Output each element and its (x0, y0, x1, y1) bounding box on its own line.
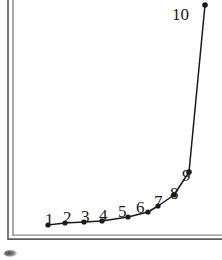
point-label-9: 9 (182, 167, 191, 184)
data-point-markers (45, 2, 207, 227)
data-point-marker (145, 209, 150, 214)
frame-left-rule (8, 0, 13, 240)
point-label-5: 5 (118, 203, 127, 220)
frame-bottom-rule (8, 235, 222, 239)
scan-smudge-artifact (4, 250, 17, 257)
figure-container: 1 2 3 4 5 6 7 8 9 10 (0, 0, 222, 260)
point-label-3: 3 (81, 208, 90, 225)
point-label-6: 6 (136, 199, 145, 216)
point-label-10: 10 (172, 6, 189, 23)
point-label-1: 1 (45, 211, 54, 228)
point-label-4: 4 (99, 207, 108, 224)
data-series-line (48, 5, 205, 225)
point-label-2: 2 (63, 209, 72, 226)
data-point-marker (202, 2, 208, 8)
point-label-8: 8 (170, 185, 179, 202)
point-label-7: 7 (154, 193, 163, 210)
line-chart-plot (0, 0, 222, 260)
